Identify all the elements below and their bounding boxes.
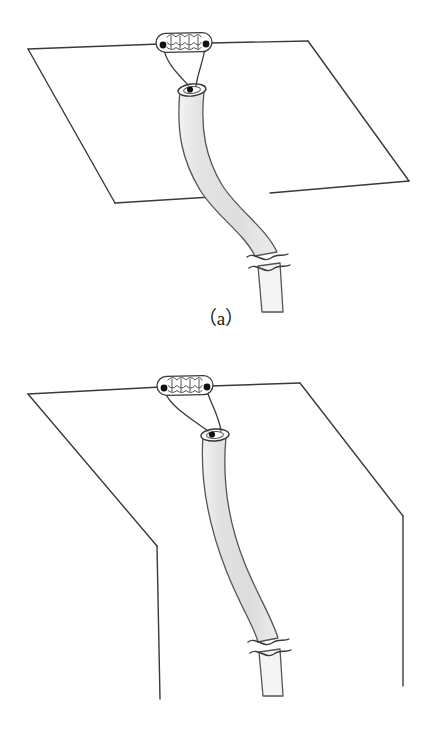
stay-suture-left-b [165,392,208,431]
plane-edge-top-left-a [28,44,160,49]
conduit-tube-a [179,90,283,312]
figure-caption-a: （a） [0,303,442,330]
anastomosis-ring-a [156,33,212,53]
ring-dot-left-b [161,385,168,392]
plane-flap-right-diagonal-b [300,383,403,516]
stoma-dot-a [187,86,193,92]
plane-edge-top-right-a [210,41,308,43]
plane-flap-left-vertical-b [157,546,160,699]
plane-flap-right-b [211,383,300,386]
anastomosis-ring-b [157,376,213,396]
figure-panel-b: （b） [0,374,442,748]
tube-body-upper-b [202,436,278,642]
plane-flap-left-b [28,387,161,394]
stay-suture-right-a [196,48,205,86]
figure-sheet: （a） [0,0,442,748]
figure-a-drawing [0,0,442,340]
figure-b-drawing [0,374,442,714]
stay-sutures-a [164,48,205,86]
ring-dot-left-a [160,42,167,49]
ring-dot-right-b [204,384,211,391]
plane-edge-right-a [308,41,409,181]
stay-sutures-b [165,391,221,431]
stay-suture-left-a [164,49,188,85]
conduit-tube-b [202,436,283,696]
ring-dot-right-a [203,41,210,48]
plane-edge-left-a [28,49,115,203]
figure-panel-a: （a） [0,0,442,374]
plane-edge-bottom-right-a [270,181,409,193]
stay-suture-right-b [207,391,221,431]
break-wave-upper-a [247,254,288,260]
plane-flap-left-diagonal-b [28,394,157,546]
stoma-dot-b [209,431,215,437]
tube-body-upper-a [179,90,277,256]
